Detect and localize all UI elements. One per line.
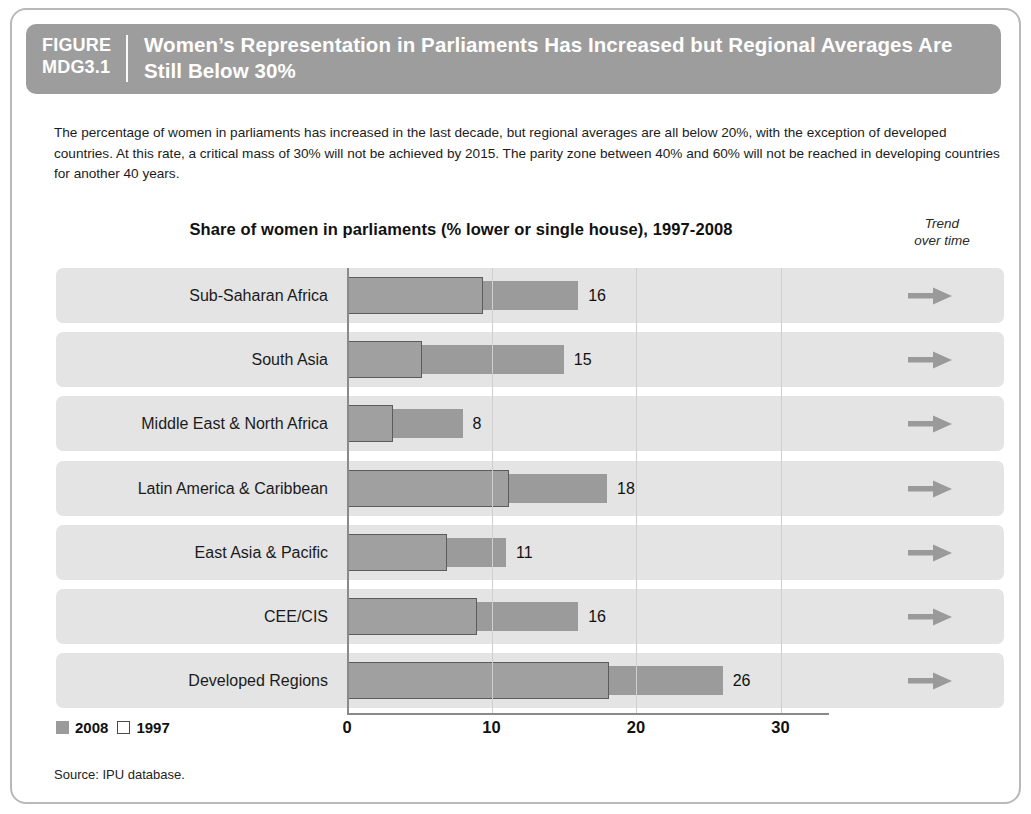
legend-item: 2008 [56,719,108,736]
row-category-label: Latin America & Caribbean [56,461,338,516]
bar-1997 [347,405,393,442]
figure-label: FIGURE [42,34,126,56]
bar-value-label: 26 [733,653,751,708]
x-axis-tick: 10 [482,718,500,737]
trend-header-line2: over time [872,232,1012,249]
bar-1997 [347,470,509,507]
chart-row: East Asia & Pacific11 [56,525,1004,580]
row-bar-track: 15 [347,332,827,387]
arrow-right-icon [907,671,953,691]
source-note: Source: IPU database. [54,767,185,782]
figure-title: Women’s Representation in Parliaments Ha… [128,24,1001,94]
trend-column-header: Trend over time [872,215,1012,249]
header-divider [126,35,128,82]
row-category-label: South Asia [56,332,338,387]
trend-cell [856,268,1004,323]
chart-title: Share of women in parliaments (% lower o… [56,220,866,239]
trend-cell [856,461,1004,516]
row-bar-track: 18 [347,461,827,516]
legend-swatch-2008 [56,721,69,734]
figure-number: MDG3.1 [42,56,126,78]
bar-value-label: 8 [473,396,482,451]
bar-value-label: 16 [588,268,606,323]
chart-row: Middle East & North Africa8 [56,396,1004,451]
bar-1997 [347,277,483,314]
trend-cell [856,589,1004,644]
arrow-right-icon [907,350,953,370]
figure-page: FIGURE MDG3.1 Women’s Representation in … [0,0,1031,814]
row-category-label: CEE/CIS [56,589,338,644]
figure-description: The percentage of women in parliaments h… [54,123,1002,185]
x-axis-tick-labels: 0102030 [56,718,1004,744]
x-axis-tick: 0 [342,718,351,737]
trend-cell [856,332,1004,387]
chart-axis-baseline [347,713,829,715]
row-category-label: Sub-Saharan Africa [56,268,338,323]
row-bar-track: 16 [347,589,827,644]
legend-label: 2008 [75,719,108,736]
row-bar-track: 8 [347,396,827,451]
arrow-right-icon [907,543,953,563]
chart-plot-area: Sub-Saharan Africa16South Asia15Middle E… [56,268,1004,715]
trend-cell [856,396,1004,451]
arrow-right-icon [907,414,953,434]
chart-row: CEE/CIS16 [56,589,1004,644]
trend-header-line1: Trend [872,215,1012,232]
trend-cell [856,653,1004,708]
row-bar-track: 11 [347,525,827,580]
x-axis-tick: 30 [771,718,789,737]
figure-number-block: FIGURE MDG3.1 [26,24,126,94]
legend-item: 1997 [117,719,169,736]
x-axis-tick: 20 [627,718,645,737]
row-category-label: Middle East & North Africa [56,396,338,451]
chart-row: Developed Regions26 [56,653,1004,708]
chart-legend: 20081997 [56,719,170,736]
arrow-right-icon [907,479,953,499]
trend-cell [856,525,1004,580]
bar-1997 [347,341,422,378]
row-category-label: Developed Regions [56,653,338,708]
arrow-right-icon [907,286,953,306]
figure-header-banner: FIGURE MDG3.1 Women’s Representation in … [26,24,1001,94]
chart-row: Sub-Saharan Africa16 [56,268,1004,323]
arrow-right-icon [907,607,953,627]
bar-1997 [347,534,447,571]
row-bar-track: 26 [347,653,827,708]
row-category-label: East Asia & Pacific [56,525,338,580]
row-bar-track: 16 [347,268,827,323]
bar-value-label: 11 [516,525,533,580]
figure-card: FIGURE MDG3.1 Women’s Representation in … [10,8,1021,804]
chart-row: South Asia15 [56,332,1004,387]
bar-1997 [347,598,477,635]
bar-value-label: 15 [574,332,592,387]
bar-value-label: 18 [617,461,635,516]
legend-swatch-1997 [117,721,130,734]
bar-1997 [347,662,609,699]
chart-row: Latin America & Caribbean18 [56,461,1004,516]
bar-value-label: 16 [588,589,606,644]
legend-label: 1997 [136,719,169,736]
